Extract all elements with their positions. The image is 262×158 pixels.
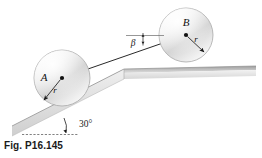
sphere-a-center-dot bbox=[60, 76, 64, 80]
sphere-b-label: B bbox=[183, 16, 190, 28]
sphere-a-label: A bbox=[40, 71, 48, 83]
beta-tick-arrow-down bbox=[142, 42, 145, 44]
beta-angle-group: β bbox=[126, 33, 164, 48]
sphere-b-radius-label: r bbox=[194, 34, 198, 44]
horizontal-surface bbox=[124, 66, 256, 79]
figure-caption: Fig. P16.145 bbox=[4, 140, 63, 151]
mechanics-diagram: A r B r β 30° bbox=[0, 0, 262, 158]
sphere-b: B r bbox=[159, 8, 213, 62]
figure-container: A r B r β 30° Fig. P16.145 bbox=[0, 0, 262, 158]
sphere-a-radius-label: r bbox=[53, 85, 57, 95]
sphere-a: A r bbox=[34, 50, 90, 106]
beta-angle-label: β bbox=[130, 38, 136, 48]
incline-angle-label: 30° bbox=[79, 119, 93, 129]
sphere-b-center-dot bbox=[184, 33, 188, 37]
